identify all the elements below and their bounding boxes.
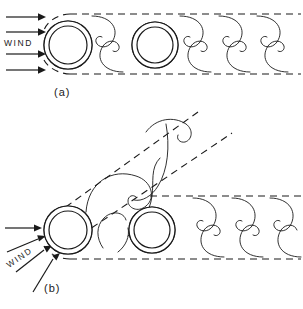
vortex-pair bbox=[257, 16, 288, 72]
vortex-pair bbox=[270, 198, 301, 257]
panel-b: WIND bbox=[5, 112, 301, 294]
flow-diagram-svg: WIND bbox=[0, 0, 303, 309]
vortex-elevated bbox=[134, 119, 191, 200]
vortex-pair bbox=[92, 16, 123, 72]
panel-b-wake-diverging-outer bbox=[56, 112, 198, 214]
panel-a-caption: (a) bbox=[54, 86, 70, 98]
panel-b-caption: (b) bbox=[44, 282, 60, 294]
wind-arrow bbox=[5, 224, 42, 231]
panel-b-wind-label: WIND bbox=[5, 245, 35, 270]
panel-a: WIND bbox=[4, 13, 301, 98]
cylinder bbox=[40, 202, 96, 258]
panel-a-wind-label: WIND bbox=[4, 38, 33, 48]
vortex-pair bbox=[180, 16, 211, 72]
cylinder bbox=[125, 203, 179, 257]
vortex-pair bbox=[193, 198, 224, 257]
cylinder bbox=[128, 18, 182, 72]
figure-container: WIND bbox=[0, 0, 303, 309]
cylinder bbox=[40, 17, 96, 73]
vortex-pair bbox=[219, 16, 250, 72]
vortex-pair bbox=[232, 198, 263, 257]
